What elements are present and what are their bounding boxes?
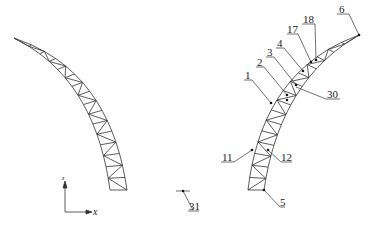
node-label-12: 12 bbox=[281, 151, 292, 163]
node-label-30: 30 bbox=[327, 88, 339, 100]
node-label-1: 1 bbox=[245, 69, 251, 81]
z-arrow-icon bbox=[63, 181, 67, 188]
x-arrow-icon bbox=[86, 210, 92, 214]
left-truss bbox=[14, 38, 127, 190]
node-label-31: 31 bbox=[189, 200, 200, 212]
node-label-17: 17 bbox=[287, 23, 299, 35]
node-label-2: 2 bbox=[257, 56, 263, 68]
node-label-4: 4 bbox=[277, 37, 283, 49]
diagram-canvas: z x bbox=[0, 0, 369, 225]
node-label-18: 18 bbox=[303, 13, 315, 25]
node-label-5: 5 bbox=[280, 196, 286, 208]
z-axis-label: z bbox=[61, 175, 65, 181]
node-label-6: 6 bbox=[339, 3, 345, 15]
leaders bbox=[176, 14, 359, 211]
node-label-11: 11 bbox=[222, 151, 233, 163]
node-label-3: 3 bbox=[267, 46, 273, 58]
x-axis-label: x bbox=[92, 206, 98, 217]
right-truss bbox=[248, 35, 359, 190]
axes bbox=[63, 181, 92, 214]
